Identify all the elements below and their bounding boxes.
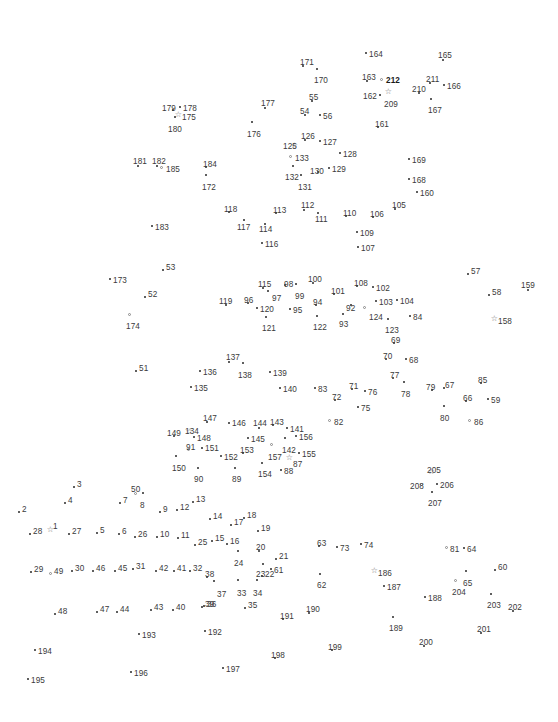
dot-label-26: 26 xyxy=(138,530,147,539)
dot-marker-icon xyxy=(403,381,405,383)
dot-label-5: 5 xyxy=(100,526,105,535)
circle-marker-icon xyxy=(128,313,132,317)
dot-marker-icon xyxy=(73,486,75,488)
dot-marker-icon xyxy=(467,273,469,275)
dot-label-72: 72 xyxy=(332,393,341,402)
dot-marker-icon xyxy=(237,579,239,581)
dot-label-104: 104 xyxy=(400,297,414,306)
dot-label-173: 173 xyxy=(113,276,127,285)
dot-label-12: 12 xyxy=(180,503,189,512)
dot-label-167: 167 xyxy=(428,106,442,115)
dot-label-127: 127 xyxy=(323,138,337,147)
dot-marker-icon xyxy=(284,437,286,439)
dot-marker-icon xyxy=(243,219,245,221)
dot-marker-icon xyxy=(243,517,245,519)
dot-label-54: 54 xyxy=(300,107,309,116)
dot-label-161: 161 xyxy=(375,120,389,129)
circle-marker-icon xyxy=(49,572,53,576)
dot-label-4: 4 xyxy=(68,496,73,505)
dot-label-45: 45 xyxy=(118,564,127,573)
dot-marker-icon xyxy=(142,492,144,494)
dot-label-53: 53 xyxy=(166,263,175,272)
dot-marker-icon xyxy=(27,678,29,680)
dot-label-85: 85 xyxy=(478,376,487,385)
dot-label-31: 31 xyxy=(136,562,145,571)
dot-marker-icon xyxy=(300,174,302,176)
dot-marker-icon xyxy=(201,606,203,608)
dot-label-81: 81 xyxy=(450,545,459,554)
dot-marker-icon xyxy=(356,231,358,233)
dot-label-9: 9 xyxy=(163,505,168,514)
dot-label-70: 70 xyxy=(383,352,392,361)
dot-label-97: 97 xyxy=(272,294,281,303)
dot-marker-icon xyxy=(279,387,281,389)
dot-label-16: 16 xyxy=(230,537,239,546)
dot-marker-icon xyxy=(138,633,140,635)
dot-marker-icon xyxy=(119,502,121,504)
dot-marker-icon xyxy=(375,300,377,302)
dot-label-210: 210 xyxy=(412,85,426,94)
dot-marker-icon xyxy=(275,558,277,560)
dot-label-180: 180 xyxy=(168,125,182,134)
dot-label-3: 3 xyxy=(77,480,82,489)
dot-label-47: 47 xyxy=(100,605,109,614)
dot-label-140: 140 xyxy=(283,385,297,394)
dot-label-115: 115 xyxy=(258,280,271,289)
dot-label-186: 186 xyxy=(378,569,392,578)
dot-marker-icon xyxy=(205,174,207,176)
dot-marker-icon xyxy=(383,585,385,587)
dot-label-111: 111 xyxy=(315,215,328,224)
dot-label-197: 197 xyxy=(226,665,240,674)
dot-marker-icon xyxy=(179,106,181,108)
dot-label-181: 181 xyxy=(133,157,147,166)
dot-label-75: 75 xyxy=(361,404,370,413)
dot-label-2: 2 xyxy=(22,505,27,514)
dot-label-153: 153 xyxy=(240,446,254,455)
dot-label-201: 201 xyxy=(477,625,491,634)
dot-label-120: 120 xyxy=(260,305,274,314)
dot-label-55: 55 xyxy=(309,93,318,102)
dot-label-32: 32 xyxy=(193,564,202,573)
dot-label-84: 84 xyxy=(413,313,422,322)
dot-label-211: 211 xyxy=(426,75,439,84)
dot-label-196: 196 xyxy=(134,669,148,678)
dot-label-150: 150 xyxy=(172,464,186,473)
dot-label-151: 151 xyxy=(205,444,219,453)
circle-marker-icon xyxy=(468,419,472,423)
dot-marker-icon xyxy=(237,550,239,552)
dot-label-66: 66 xyxy=(463,394,472,403)
dot-marker-icon xyxy=(177,537,179,539)
dot-marker-icon xyxy=(29,533,31,535)
dot-label-116: 116 xyxy=(265,240,278,249)
dot-label-130: 130 xyxy=(310,167,324,176)
dot-label-123: 123 xyxy=(385,326,399,335)
dot-marker-icon xyxy=(92,570,94,572)
dot-label-11: 11 xyxy=(181,531,190,540)
dot-label-19: 19 xyxy=(261,524,270,533)
dot-label-124: 124 xyxy=(369,313,383,322)
dot-label-191: 191 xyxy=(280,612,294,621)
dot-marker-icon xyxy=(118,533,120,535)
dot-label-93: 93 xyxy=(339,320,348,329)
dot-label-29: 29 xyxy=(34,565,43,574)
dot-label-76: 76 xyxy=(368,388,377,397)
dot-label-114: 114 xyxy=(259,225,272,234)
dot-marker-icon xyxy=(261,462,263,464)
dot-label-30: 30 xyxy=(75,564,84,573)
dot-label-73: 73 xyxy=(340,544,349,553)
dot-marker-icon xyxy=(430,98,432,100)
dot-marker-icon xyxy=(30,571,32,573)
dot-label-107: 107 xyxy=(361,244,375,253)
dot-marker-icon xyxy=(261,242,263,244)
dot-label-136: 136 xyxy=(203,368,217,377)
dot-label-56: 56 xyxy=(323,112,332,121)
circle-marker-icon xyxy=(270,443,274,447)
dot-marker-icon xyxy=(319,114,321,116)
dot-label-35: 35 xyxy=(248,601,257,610)
dot-marker-icon xyxy=(292,165,294,167)
dot-label-193: 193 xyxy=(142,631,156,640)
dot-label-177: 177 xyxy=(261,99,275,108)
dot-label-46: 46 xyxy=(96,564,105,573)
dot-label-126: 126 xyxy=(301,132,315,141)
dot-label-202: 202 xyxy=(508,603,522,612)
